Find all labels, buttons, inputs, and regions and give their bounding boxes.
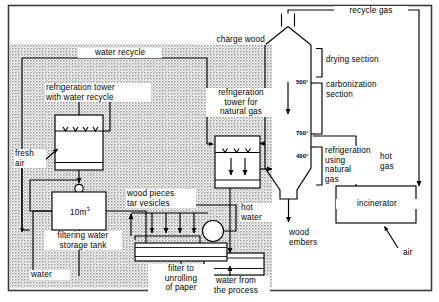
label-refrigeration-tower-natural-gas: refrigeration tower for natural gas	[206, 88, 276, 117]
diagram-canvas: recycle gas charge wood water recycle re…	[0, 0, 439, 302]
label-water: water	[30, 270, 70, 280]
label-charge-wood: charge wood	[198, 35, 266, 45]
label-drying-section: drying section	[325, 55, 409, 65]
label-tank-volume: 10m3	[58, 205, 102, 217]
label-temperature-400: 400°	[296, 153, 308, 160]
label-hot-water: hot water	[240, 203, 274, 222]
paper-filter-bath	[135, 243, 227, 261]
tank-volume-value: 10m	[70, 208, 86, 217]
label-fresh-air: fresh air	[14, 149, 46, 168]
label-filtering-water-storage-tank: filtering water storage tank	[44, 231, 122, 250]
label-air: air	[402, 248, 426, 258]
label-refrigeration-using-natural-gas: refrigeration using natural gas	[324, 146, 380, 184]
label-incinerator: incinerator	[336, 199, 418, 209]
label-refrigeration-tower-water-recycle: refrigeration tower with water recycle	[45, 83, 151, 102]
tank-volume-exponent: 3	[86, 206, 90, 212]
label-temperature-500: 500°	[296, 79, 308, 86]
label-carbonization-section: carbonization section	[325, 80, 405, 99]
water-recycle-tower-box	[55, 115, 103, 170]
label-wood-pieces-tar-vesicles: wood pieces tar vesicles	[126, 189, 196, 208]
unrolling-roller	[203, 221, 224, 242]
label-water-recycle: water recycle	[78, 48, 162, 58]
label-water-from-the-process: water from the process	[202, 276, 270, 295]
label-hot-gas: hot gas	[379, 152, 407, 171]
label-recycle-gas: recycle gas	[334, 6, 408, 16]
label-temperature-700: 700°	[296, 130, 308, 137]
label-wood-embers: wood embers	[288, 228, 334, 247]
